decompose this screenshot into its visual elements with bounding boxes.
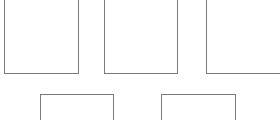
- box-top-left: [4, 0, 79, 74]
- box-bottom-right: [161, 94, 236, 120]
- box-top-right: [206, 0, 280, 74]
- diagram-canvas: [0, 0, 280, 120]
- box-top-center: [104, 0, 178, 74]
- box-bottom-left: [40, 94, 114, 120]
